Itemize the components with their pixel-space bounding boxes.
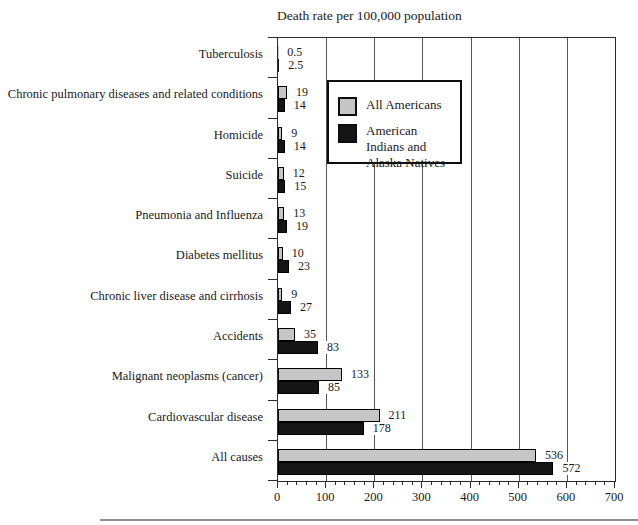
value-label: 23	[296, 260, 312, 273]
bar-american-indians-alaska-natives	[278, 59, 279, 72]
value-label: 178	[371, 422, 393, 435]
y-axis-tick	[268, 77, 277, 78]
value-label: 2.5	[286, 59, 305, 72]
x-axis-minor-tick	[547, 481, 548, 485]
bar-american-indians-alaska-natives	[278, 220, 287, 233]
bar-american-indians-alaska-natives	[278, 301, 291, 314]
x-axis-major-tick	[470, 481, 471, 488]
y-axis-tick	[268, 480, 277, 481]
y-axis-tick	[268, 198, 277, 199]
y-axis-tick	[268, 279, 277, 280]
x-axis-minor-tick	[296, 481, 297, 485]
bar-all-americans	[278, 207, 284, 220]
x-axis-minor-tick	[595, 481, 596, 485]
x-axis-minor-tick	[393, 481, 394, 485]
x-axis-major-tick	[421, 481, 422, 488]
x-axis-major-tick	[373, 481, 374, 488]
bar-american-indians-alaska-natives	[278, 180, 285, 193]
bar-american-indians-alaska-natives	[278, 422, 364, 435]
category-label: Suicide	[226, 167, 264, 183]
x-axis-tick-label: 400	[448, 490, 492, 504]
x-axis-minor-tick	[499, 481, 500, 485]
x-axis-minor-tick	[335, 481, 336, 485]
value-label: 83	[325, 341, 341, 354]
x-axis-tick-label: 300	[399, 490, 443, 504]
x-axis-minor-tick	[354, 481, 355, 485]
y-axis-tick	[268, 158, 277, 159]
x-axis-minor-tick	[460, 481, 461, 485]
legend-label: All Americans	[366, 97, 458, 113]
value-label: 85	[326, 381, 342, 394]
legend: All AmericansAmerican Indians and Alaska…	[327, 80, 462, 164]
y-axis-tick	[268, 37, 277, 38]
category-label: Pneumonia and Influenza	[135, 207, 263, 223]
gridline-600	[567, 38, 568, 481]
value-label: 9	[289, 288, 299, 301]
x-axis-minor-tick	[316, 481, 317, 485]
category-label: Chronic liver disease and cirrhosis	[90, 288, 263, 304]
x-axis-tick-label: 100	[303, 490, 347, 504]
value-label: 133	[349, 368, 371, 381]
value-label: 15	[292, 180, 308, 193]
legend-label: American Indians and Alaska Natives	[366, 123, 458, 171]
category-label: All causes	[211, 449, 263, 465]
value-label: 14	[292, 99, 308, 112]
bar-all-americans	[278, 86, 287, 99]
bar-all-americans	[278, 127, 282, 140]
x-axis-minor-tick	[604, 481, 605, 485]
x-axis-minor-tick	[527, 481, 528, 485]
x-axis-tick-label: 600	[544, 490, 588, 504]
x-axis-minor-tick	[287, 481, 288, 485]
y-axis-tick	[268, 440, 277, 441]
category-label: Cardiovascular disease	[148, 409, 263, 425]
x-axis-minor-tick	[412, 481, 413, 485]
x-axis-minor-tick	[556, 481, 557, 485]
x-axis-minor-tick	[364, 481, 365, 485]
category-label: Malignant neoplasms (cancer)	[112, 368, 263, 384]
x-axis-minor-tick	[576, 481, 577, 485]
y-axis-tick	[268, 400, 277, 401]
chart-title: Death rate per 100,000 population	[277, 8, 462, 24]
value-label: 536	[543, 449, 565, 462]
x-axis-minor-tick	[537, 481, 538, 485]
bar-all-americans	[278, 449, 536, 462]
x-axis-minor-tick	[383, 481, 384, 485]
legend-swatch-all-americans	[338, 97, 357, 116]
bottom-rule-line	[100, 519, 638, 521]
value-label: 14	[292, 140, 308, 153]
bar-american-indians-alaska-natives	[278, 381, 319, 394]
x-axis-minor-tick	[508, 481, 509, 485]
bar-all-americans	[278, 409, 380, 422]
x-axis-major-tick	[518, 481, 519, 488]
x-axis-minor-tick	[306, 481, 307, 485]
y-axis-tick	[268, 359, 277, 360]
bar-american-indians-alaska-natives	[278, 99, 285, 112]
value-label: 572	[560, 462, 582, 475]
category-label: Chronic pulmonary diseases and related c…	[8, 86, 263, 102]
y-axis-tick	[268, 118, 277, 119]
x-axis-major-tick	[325, 481, 326, 488]
x-axis-minor-tick	[344, 481, 345, 485]
bar-american-indians-alaska-natives	[278, 140, 285, 153]
x-axis-minor-tick	[489, 481, 490, 485]
x-axis-minor-tick	[479, 481, 480, 485]
bar-american-indians-alaska-natives	[278, 341, 318, 354]
bar-all-americans	[278, 328, 295, 341]
bar-all-americans	[278, 247, 283, 260]
category-label: Tuberculosis	[199, 46, 263, 62]
x-axis-minor-tick	[431, 481, 432, 485]
value-label: 27	[298, 301, 314, 314]
x-axis-major-tick	[566, 481, 567, 488]
y-axis-tick	[268, 319, 277, 320]
y-axis-tick	[268, 238, 277, 239]
gridline-500	[519, 38, 520, 481]
x-axis-major-tick	[277, 481, 278, 488]
value-label: 9	[289, 127, 299, 140]
figure: Death rate per 100,000 population 0.52.5…	[0, 0, 638, 525]
x-axis-tick-label: 700	[592, 490, 636, 504]
x-axis-minor-tick	[450, 481, 451, 485]
x-axis-major-tick	[614, 481, 615, 488]
bar-all-americans	[278, 46, 279, 59]
category-label: Accidents	[213, 328, 263, 344]
gridline-400	[471, 38, 472, 481]
